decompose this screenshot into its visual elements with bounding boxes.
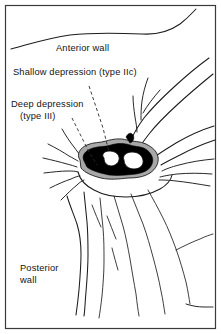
label-deep-depression-line1: Deep depression: [11, 99, 84, 109]
posterior-fold-6: [148, 190, 190, 304]
label-deep-depression-line2: (type III): [11, 111, 84, 123]
posterior-fold-10: [176, 234, 213, 250]
fold-left-3: [43, 158, 77, 167]
fold-left-6: [61, 180, 84, 200]
posterior-fold-1: [67, 196, 81, 315]
fold-right-lateral-4: [160, 173, 212, 177]
posterior-fold-4: [114, 196, 139, 316]
label-posterior-wall-line1: Posterior: [20, 263, 59, 273]
label-posterior-wall: Posterior wall: [20, 263, 59, 286]
lesion-island-right: [123, 152, 143, 169]
posterior-fold-2: [84, 192, 88, 316]
fold-left-4: [44, 171, 78, 173]
posterior-fold-3: [99, 198, 104, 318]
posterior-bottom-contour: [186, 304, 213, 307]
label-shallow-depression: Shallow depression (type IIc): [13, 67, 137, 79]
fold-right-lateral-3: [162, 159, 214, 171]
label-anterior-wall: Anterior wall: [56, 43, 109, 55]
fold-right-lateral-1: [156, 126, 214, 156]
fold-left-1: [62, 129, 81, 156]
posterior-fold-7: [92, 205, 101, 227]
label-posterior-wall-line2: wall: [20, 275, 59, 287]
fold-upper-right-4: [133, 96, 137, 132]
figure-root: Anterior wall Shallow depression (type I…: [0, 0, 221, 334]
posterior-fold-8: [107, 216, 116, 239]
lesion-island-left: [103, 151, 119, 166]
fold-right-lateral-2: [161, 140, 215, 165]
label-deep-depression: Deep depression (type III): [11, 99, 84, 122]
fold-right-lateral-5: [159, 180, 210, 186]
posterior-fold-9: [112, 248, 118, 270]
